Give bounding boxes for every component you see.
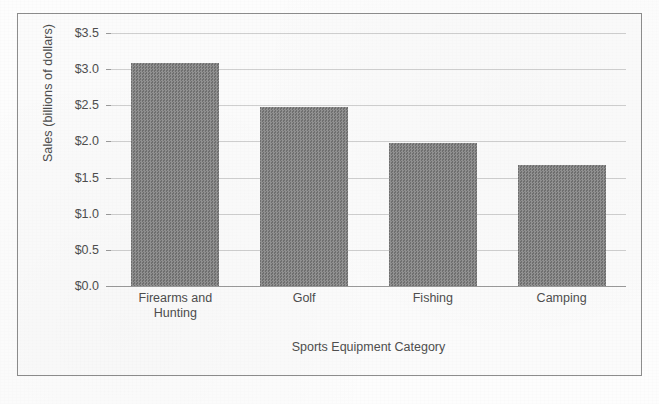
y-tick-mark	[106, 141, 111, 142]
y-axis-tick-label: $3.5	[75, 26, 99, 40]
y-axis-tick-label: $0.5	[75, 243, 99, 257]
x-axis-category-label: Camping	[497, 291, 626, 306]
y-tick-mark	[106, 69, 111, 70]
bar	[389, 143, 477, 286]
x-axis-category-label-line: Fishing	[369, 291, 498, 306]
x-axis-title: Sports Equipment Category	[111, 340, 626, 354]
y-tick-mark	[106, 250, 111, 251]
plot-area: $3.5$3.0$2.5$2.0$1.5$1.0$0.5$0.0	[111, 33, 626, 286]
bar-chart-frame: Sales (billions of dollars) $3.5$3.0$2.5…	[17, 13, 642, 376]
x-axis-category-label-line: Hunting	[111, 306, 240, 321]
x-axis-category-label-line: Camping	[497, 291, 626, 306]
y-tick-mark	[106, 214, 111, 215]
bar	[518, 165, 606, 286]
y-tick-mark	[106, 105, 111, 106]
y-tick-mark	[106, 33, 111, 34]
bar	[260, 107, 348, 286]
y-gridline	[111, 286, 626, 287]
y-axis-tick-label: $3.0	[75, 62, 99, 76]
y-axis-tick-label: $1.5	[75, 171, 99, 185]
x-axis-category-label: Firearms andHunting	[111, 291, 240, 321]
x-axis-category-label: Golf	[240, 291, 369, 306]
y-gridline	[111, 33, 626, 34]
x-axis-category-label: Fishing	[369, 291, 498, 306]
y-axis-title: Sales (billions of dollars)	[41, 0, 55, 193]
y-tick-mark	[106, 286, 111, 287]
y-axis-tick-label: $2.5	[75, 98, 99, 112]
y-axis-tick-label: $0.0	[75, 279, 99, 293]
x-axis-category-label-line: Golf	[240, 291, 369, 306]
y-tick-mark	[106, 178, 111, 179]
y-axis-tick-label: $1.0	[75, 207, 99, 221]
bar	[131, 63, 219, 286]
y-axis-tick-label: $2.0	[75, 134, 99, 148]
x-axis-category-label-line: Firearms and	[111, 291, 240, 306]
